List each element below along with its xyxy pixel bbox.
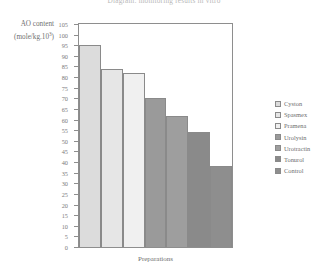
- bar-urolysin[interactable]: [145, 98, 167, 247]
- legend-item-cyston[interactable]: Cyston: [275, 98, 327, 109]
- legend-swatch-icon: [275, 101, 281, 107]
- y-axis-tick-label: 40: [62, 160, 68, 166]
- y-axis-label-line2: (mole/kg.103): [2, 30, 54, 43]
- y-axis-tick-label: 5: [65, 234, 68, 240]
- y-axis-tick-label: 70: [62, 96, 68, 102]
- y-axis-tick-label: 25: [62, 192, 68, 198]
- bar-cyston[interactable]: [79, 45, 101, 247]
- x-axis-label: Preparations: [78, 255, 233, 263]
- legend-swatch-icon: [275, 123, 281, 129]
- bar-urotractin[interactable]: [166, 116, 188, 247]
- y-axis-tick-label: 20: [62, 202, 68, 208]
- bar-spasmex[interactable]: [101, 69, 123, 247]
- y-axis-label: AO content (mole/kg.103): [2, 20, 54, 43]
- chart-legend: CystonSpasmexPramenaUrolysinUrotractinTo…: [275, 98, 327, 176]
- legend-item-spasmex[interactable]: Spasmex: [275, 109, 327, 120]
- y-axis-tick-label: 90: [62, 54, 68, 60]
- y-axis-tick-label: 105: [59, 22, 68, 28]
- plot-area: 1051009590858075706560555045403530252015…: [78, 23, 233, 248]
- legend-item-label: Cyston: [284, 100, 302, 107]
- chart-title: Diagram: monitoring results in vitro: [0, 0, 328, 5]
- bar-pramena[interactable]: [123, 73, 145, 247]
- legend-item-urotractin[interactable]: Urotractin: [275, 143, 327, 154]
- legend-item-urolysin[interactable]: Urolysin: [275, 132, 327, 143]
- y-axis-unit-suffix: ): [52, 33, 54, 41]
- legend-swatch-icon: [275, 168, 281, 174]
- bar-tonurol[interactable]: [188, 132, 210, 247]
- legend-item-tonurol[interactable]: Tonurol: [275, 154, 327, 165]
- y-axis-tick-label: 0: [65, 245, 68, 251]
- legend-item-label: Urotractin: [284, 145, 310, 152]
- legend-item-label: Tonurol: [284, 156, 304, 163]
- legend-swatch-icon: [275, 134, 281, 140]
- legend-item-label: Control: [284, 167, 304, 174]
- bar-control[interactable]: [210, 166, 232, 247]
- legend-item-label: Pramena: [284, 122, 306, 129]
- y-axis-tick-label: 95: [62, 43, 68, 49]
- y-axis-tick-label: 100: [59, 32, 68, 38]
- legend-swatch-icon: [275, 145, 281, 151]
- y-axis-tick-label: 75: [62, 86, 68, 92]
- y-axis-tick-label: 30: [62, 181, 68, 187]
- y-axis-label-line1: AO content: [2, 20, 54, 30]
- y-axis-tick: 0: [74, 247, 79, 248]
- legend-swatch-icon: [275, 112, 281, 118]
- legend-item-pramena[interactable]: Pramena: [275, 120, 327, 131]
- y-axis-tick-label: 15: [62, 213, 68, 219]
- y-axis-tick-label: 10: [62, 224, 68, 230]
- y-axis-tick-label: 85: [62, 64, 68, 70]
- legend-item-label: Urolysin: [284, 134, 306, 141]
- y-axis-unit-prefix: (mole/kg.10: [14, 33, 49, 41]
- legend-swatch-icon: [275, 156, 281, 162]
- legend-item-control[interactable]: Control: [275, 165, 327, 176]
- legend-item-label: Spasmex: [284, 111, 307, 118]
- y-axis-tick-label: 35: [62, 171, 68, 177]
- y-axis-tick-label: 45: [62, 149, 68, 155]
- y-axis-tick-label: 60: [62, 117, 68, 123]
- y-axis-tick-label: 50: [62, 139, 68, 145]
- y-axis-tick-label: 65: [62, 107, 68, 113]
- y-axis-tick-label: 55: [62, 128, 68, 134]
- bar-chart-figure: Diagram: monitoring results in vitro AO …: [0, 0, 328, 280]
- y-axis-tick-label: 80: [62, 75, 68, 81]
- bar-series: [79, 24, 232, 247]
